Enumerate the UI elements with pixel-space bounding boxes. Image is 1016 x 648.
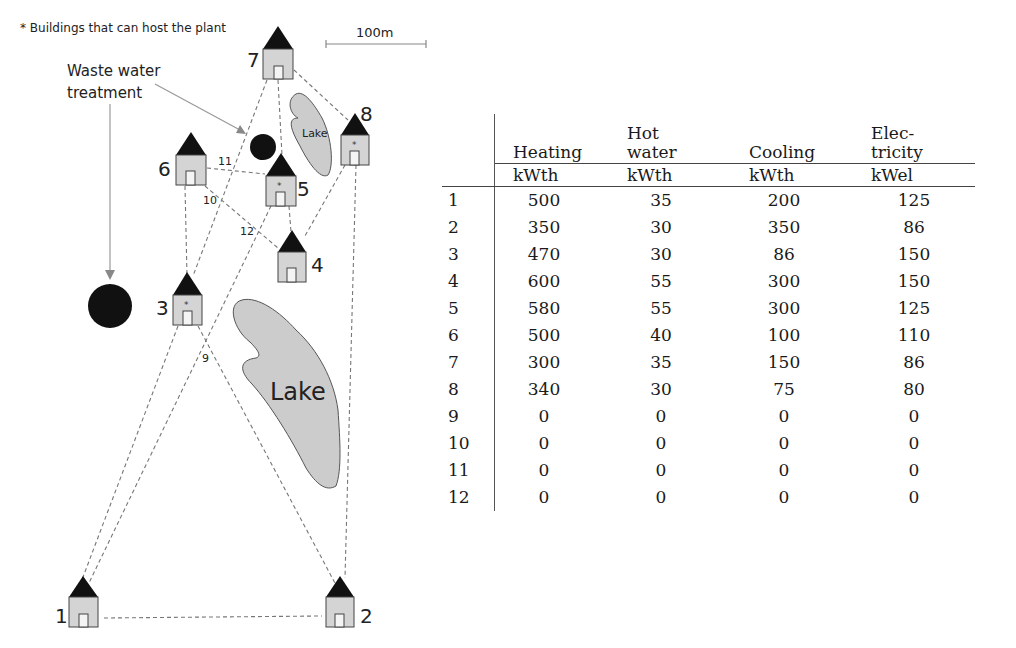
cell-hot-water: 55 (623, 268, 741, 295)
row-id: 8 (442, 376, 495, 403)
cell-heating: 0 (495, 403, 624, 430)
row-id: 4 (442, 268, 495, 295)
cell-hot-water: 0 (623, 403, 741, 430)
waste-water-label-line2: treatment (67, 84, 142, 102)
cell-electricity: 86 (863, 214, 975, 241)
small-treatment-plant (250, 134, 276, 160)
building-label-5: 5 (297, 177, 310, 201)
cell-cooling: 300 (741, 268, 863, 295)
building-label-7: 7 (247, 48, 260, 72)
cell-cooling: 0 (741, 484, 863, 511)
cell-heating: 600 (495, 268, 624, 295)
building-8[interactable]: * 8 (341, 102, 373, 165)
table-row: 23503035086 (442, 214, 975, 241)
building-3[interactable]: * 3 (156, 272, 202, 325)
header-heating-label: Heating (513, 142, 582, 162)
cell-hot-water: 0 (623, 484, 741, 511)
table-row: 100000 (442, 430, 975, 457)
cell-heating: 350 (495, 214, 624, 241)
cell-heating: 0 (495, 484, 624, 511)
header-electricity-line1: Elec- (871, 123, 914, 143)
unit-electricity: kWel (863, 164, 975, 187)
legend-note: * Buildings that can host the plant (20, 21, 226, 35)
cell-cooling: 75 (741, 376, 863, 403)
table-row: 90000 (442, 403, 975, 430)
host-plant-marker: * (277, 181, 282, 191)
cell-cooling: 150 (741, 349, 863, 376)
arrow-to-small-plant (155, 84, 246, 134)
small-lake-label: Lake (302, 127, 328, 140)
header-cooling-label: Cooling (749, 142, 815, 162)
row-id: 12 (442, 484, 495, 511)
cell-heating: 0 (495, 430, 624, 457)
building-7[interactable]: 7 (247, 26, 293, 79)
row-id: 5 (442, 295, 495, 322)
cell-hot-water: 35 (623, 349, 741, 376)
cell-electricity: 86 (863, 349, 975, 376)
large-lake-label: Lake (270, 378, 326, 406)
arrow-to-large-plant (105, 104, 115, 280)
unit-heating: kWth (495, 164, 624, 187)
small-lake: Lake (290, 93, 331, 176)
row-id: 9 (442, 403, 495, 430)
cell-electricity: 125 (863, 187, 975, 215)
cell-cooling: 86 (741, 241, 863, 268)
table-row: 110000 (442, 457, 975, 484)
table-row: 460055300150 (442, 268, 975, 295)
units-row: kWth kWth kWth kWel (442, 164, 975, 187)
cell-cooling: 0 (741, 403, 863, 430)
cell-cooling: 100 (741, 322, 863, 349)
row-id: 2 (442, 214, 495, 241)
large-treatment-plant (88, 284, 132, 328)
building-2[interactable]: 2 (326, 576, 373, 628)
building-5[interactable]: * 5 (266, 153, 310, 206)
cell-hot-water: 30 (623, 214, 741, 241)
cell-hot-water: 35 (623, 187, 741, 215)
building-4[interactable]: 4 (278, 230, 324, 282)
table-row: 650040100110 (442, 322, 975, 349)
table-row: 8340307580 (442, 376, 975, 403)
building-1[interactable]: 1 (55, 576, 98, 628)
header-hot-water: Hotwater (623, 114, 741, 164)
header-hot-water-line2: water (627, 142, 677, 162)
building-label-1: 1 (55, 604, 68, 628)
energy-demand-table-container: Heating Hotwater Cooling Elec-tricity kW… (442, 114, 982, 511)
cell-electricity: 0 (863, 403, 975, 430)
cell-hot-water: 0 (623, 457, 741, 484)
cell-electricity: 150 (863, 241, 975, 268)
scale-bar: 100m (326, 25, 426, 48)
cell-hot-water: 30 (623, 241, 741, 268)
cell-hot-water: 55 (623, 295, 741, 322)
table-row: 120000 (442, 484, 975, 511)
cell-cooling: 0 (741, 457, 863, 484)
cell-heating: 500 (495, 187, 624, 215)
header-electricity: Elec-tricity (863, 114, 975, 164)
cell-cooling: 350 (741, 214, 863, 241)
header-row: Heating Hotwater Cooling Elec-tricity (442, 114, 975, 164)
cell-heating: 300 (495, 349, 624, 376)
energy-demand-table: Heating Hotwater Cooling Elec-tricity kW… (442, 114, 975, 511)
cell-hot-water: 30 (623, 376, 741, 403)
cell-cooling: 200 (741, 187, 863, 215)
cell-electricity: 0 (863, 430, 975, 457)
index-header (442, 114, 495, 164)
cell-electricity: 110 (863, 322, 975, 349)
row-id: 11 (442, 457, 495, 484)
cell-electricity: 150 (863, 268, 975, 295)
table-body: 150035200125 23503035086 34703086150 460… (442, 187, 975, 512)
cell-hot-water: 40 (623, 322, 741, 349)
table-row: 150035200125 (442, 187, 975, 215)
cell-electricity: 125 (863, 295, 975, 322)
cell-heating: 0 (495, 457, 624, 484)
cell-heating: 500 (495, 322, 624, 349)
row-id: 7 (442, 349, 495, 376)
building-label-4: 4 (311, 253, 324, 277)
cell-heating: 470 (495, 241, 624, 268)
row-id: 1 (442, 187, 495, 215)
building-6[interactable]: 6 (158, 132, 206, 185)
cell-electricity: 0 (863, 457, 975, 484)
waste-water-label-line1: Waste water (67, 62, 161, 80)
building-label-2: 2 (360, 604, 373, 628)
site-map: * Buildings that can host the plant 100m… (0, 0, 440, 648)
junction-label-9: 9 (202, 352, 209, 365)
